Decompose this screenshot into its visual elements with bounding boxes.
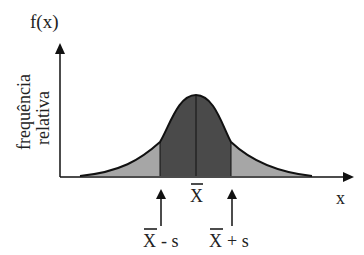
mean-plus-s-bar: X: [209, 231, 222, 251]
y-axis-arrow-icon: [55, 43, 65, 54]
minus-s-arrow-icon: [156, 189, 166, 199]
fx-label: f(x): [30, 11, 58, 33]
y-label-line2: relativa: [33, 91, 53, 145]
x-label: x: [336, 188, 345, 208]
tail-region: [231, 142, 312, 176]
mean-plus-s-suffix: + s: [227, 231, 249, 251]
y-label-line1: frequência: [14, 74, 34, 150]
normal-distribution-diagram: f(x) frequência relativa x X X - s X + s: [0, 0, 364, 255]
mean-minus-s-bar: X: [143, 231, 156, 251]
mean-label: X: [190, 186, 203, 206]
tail-region: [80, 142, 160, 176]
x-axis-arrow-icon: [343, 172, 354, 182]
mean-minus-s-suffix: - s: [161, 231, 179, 251]
plus-s-arrow-icon: [227, 189, 237, 199]
